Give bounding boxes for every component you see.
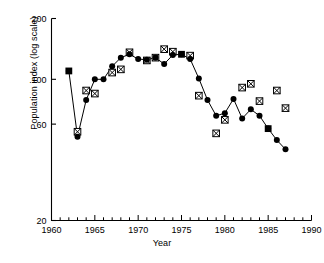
crossed-square-marker [161, 46, 168, 53]
crossed-square-marker [196, 92, 203, 99]
data-point-circle [257, 113, 263, 119]
series-points-secondary-index [74, 46, 289, 137]
crossed-square-marker [222, 117, 229, 124]
data-point-circle [205, 97, 211, 103]
data-point-circle [118, 55, 124, 61]
data-point-circle [144, 57, 150, 63]
data-point-circle [170, 52, 176, 58]
series-line-population-index [69, 54, 286, 149]
data-point-circle [161, 61, 167, 67]
crossed-square-marker [109, 69, 116, 76]
data-point-circle [222, 110, 228, 116]
crossed-square-marker [282, 105, 289, 112]
data-point-circle [239, 115, 245, 121]
crossed-square-marker [213, 130, 220, 137]
chart-figure: 20601002001960196519701975198019851990 P… [0, 0, 324, 263]
crossed-square-marker [118, 66, 125, 73]
series-points-population-index [66, 51, 289, 152]
data-point-circle [109, 63, 115, 69]
data-point-circle [248, 106, 254, 112]
data-point-square [65, 68, 72, 75]
data-point-circle [101, 76, 107, 82]
data-point-circle [127, 51, 133, 57]
tick-marks [52, 19, 312, 221]
data-point-circle [187, 56, 193, 62]
data-point-circle [83, 97, 89, 103]
data-point-circle [283, 146, 289, 152]
data-point-square [265, 125, 272, 132]
svg-text:1965: 1965 [85, 225, 105, 235]
data-point-circle [135, 56, 141, 62]
crossed-square-marker [239, 84, 246, 91]
data-point-circle [274, 137, 280, 143]
data-point-circle [231, 96, 237, 102]
y-axis-label: Population index (log scale) [29, 0, 39, 153]
data-point-circle [196, 75, 202, 81]
crossed-square-marker [248, 81, 255, 88]
svg-text:1980: 1980 [215, 225, 235, 235]
crossed-square-marker [274, 87, 281, 94]
tick-labels: 20601002001960196519701975198019851990 [31, 14, 321, 235]
x-axis-label: Year [0, 238, 324, 248]
crossed-square-marker [92, 90, 99, 97]
data-point-circle [213, 113, 219, 119]
axes [52, 19, 312, 221]
crossed-square-marker [256, 98, 263, 105]
svg-text:1990: 1990 [301, 225, 321, 235]
svg-text:1960: 1960 [41, 225, 61, 235]
data-point-circle [153, 55, 159, 61]
data-point-circle [75, 134, 81, 140]
chart-canvas: 20601002001960196519701975198019851990 [0, 0, 324, 263]
data-point-square [178, 51, 185, 58]
y-axis-label-container: Population index (log scale) [0, 28, 16, 208]
svg-text:1970: 1970 [128, 225, 148, 235]
svg-text:1975: 1975 [171, 225, 191, 235]
svg-text:1985: 1985 [258, 225, 278, 235]
data-point-circle [92, 76, 98, 82]
crossed-square-marker [83, 87, 90, 94]
